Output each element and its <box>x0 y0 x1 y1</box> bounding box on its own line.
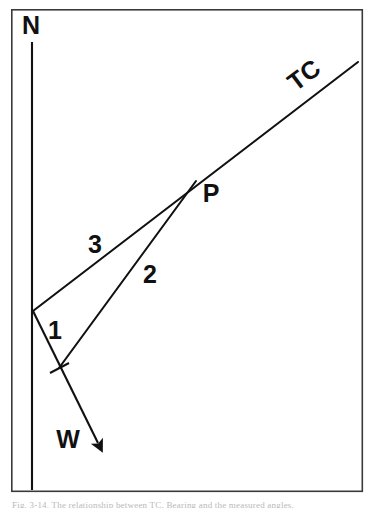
label-true-course: TC <box>282 54 325 96</box>
figure-container: N TC P 3 2 1 W Fig. 3-14. The relationsh… <box>0 0 376 508</box>
west-heading-arrow <box>33 311 98 443</box>
label-angle-3: 3 <box>88 230 102 258</box>
label-angle-2: 2 <box>143 260 157 288</box>
navigation-angle-diagram: N TC P 3 2 1 W <box>0 0 376 508</box>
figure-caption-clipped: Fig. 3-14. The relationship between TC, … <box>12 501 370 508</box>
label-north: N <box>22 11 40 39</box>
label-angle-1: 1 <box>48 316 62 344</box>
label-point-p: P <box>203 179 220 207</box>
label-west: W <box>56 425 80 453</box>
true-course-line <box>33 62 358 311</box>
